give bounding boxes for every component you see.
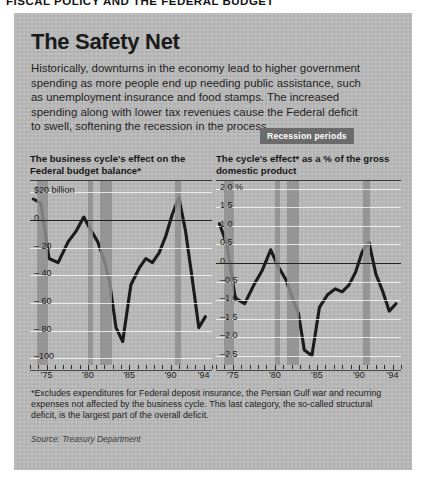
- recession-band: [37, 181, 48, 365]
- gridline: [216, 282, 401, 283]
- x-axis-tick: [342, 365, 343, 369]
- x-axis-tick: [55, 365, 56, 369]
- x-axis-tick-label: '90: [353, 370, 365, 380]
- x-axis-tick-label: '80: [82, 370, 94, 380]
- x-axis-tick: [367, 365, 368, 369]
- x-axis-tick: [80, 365, 81, 369]
- x-axis-tick: [162, 365, 163, 369]
- x-axis-tick: [292, 365, 293, 369]
- x-axis-tick-label: '94: [198, 370, 210, 380]
- gridline: [30, 303, 212, 304]
- x-axis-rule-left: [30, 370, 212, 371]
- x-axis-tick: [283, 365, 284, 369]
- gridline: [30, 192, 212, 193]
- x-axis-tick: [121, 365, 122, 369]
- x-axis-tick: [195, 365, 196, 369]
- gridline: [30, 248, 212, 249]
- recession-band: [88, 181, 93, 365]
- x-axis-tick: [300, 365, 301, 369]
- x-axis-tick: [258, 365, 259, 369]
- x-axis-tick: [309, 365, 310, 369]
- zero-line: [216, 263, 401, 264]
- article-panel: The Safety Net Historically, downturns i…: [14, 13, 412, 470]
- x-axis-tick: [241, 365, 242, 369]
- footnote: *Excludes expenditures for Federal depos…: [31, 388, 391, 422]
- x-axis-tick: [325, 365, 326, 369]
- page-title: The Safety Net: [31, 29, 180, 55]
- x-axis-tick: [104, 365, 105, 369]
- page-kicker: FISCAL POLICY AND THE FEDERAL BUDGET: [6, 0, 274, 7]
- x-axis-tick: [71, 365, 72, 369]
- gridline: [216, 189, 401, 190]
- x-axis-tick: [138, 365, 139, 369]
- x-axis-tick-label: '75: [227, 370, 239, 380]
- x-axis-tick: [30, 365, 31, 369]
- x-axis-tick: [146, 365, 147, 369]
- chart-title-left: The business cycle's effect on the Feder…: [30, 153, 212, 176]
- gridline: [216, 337, 401, 338]
- x-axis-tick-label: '85: [311, 370, 323, 380]
- x-axis-tick-label: '94: [387, 370, 399, 380]
- recession-band: [100, 181, 112, 365]
- series-svg-left: [30, 181, 212, 365]
- gridline: [216, 300, 401, 301]
- x-axis-tick-label: '80: [269, 370, 281, 380]
- x-axis-tick: [179, 365, 180, 369]
- x-axis-tick: [250, 365, 251, 369]
- plot-area-right: [216, 180, 401, 365]
- x-axis-tick: [224, 365, 225, 369]
- gridline: [216, 244, 401, 245]
- x-axis-tick: [384, 365, 385, 369]
- gridline: [216, 207, 401, 208]
- x-axis-tick-label: '85: [123, 370, 135, 380]
- gridline: [30, 358, 212, 359]
- chart-federal-budget-balance: The business cycle's effect on the Feder…: [30, 153, 212, 381]
- x-axis-tick: [266, 365, 267, 369]
- plot-area-left: [30, 180, 212, 365]
- x-axis-tick: [113, 365, 114, 369]
- x-axis-tick-label: '90: [165, 370, 177, 380]
- x-axis-tick: [376, 365, 377, 369]
- source-credit: Source: Treasury Department: [31, 434, 141, 444]
- x-axis-tick: [212, 365, 213, 369]
- x-axis-tick: [154, 365, 155, 369]
- chart-cycle-effect-pct-gdp: The cycle's effect* as a % of the gross …: [216, 153, 401, 381]
- x-axis-tick: [334, 365, 335, 369]
- x-axis-tick: [351, 365, 352, 369]
- zero-line: [30, 220, 212, 221]
- gridline: [216, 226, 401, 227]
- gridline: [30, 275, 212, 276]
- x-axis-tick: [63, 365, 64, 369]
- x-axis-rule-right: [216, 370, 401, 371]
- x-axis-tick: [216, 365, 217, 369]
- gridline: [30, 331, 212, 332]
- lede-paragraph: Historically, downturns in the economy l…: [31, 61, 361, 134]
- x-axis-tick: [187, 365, 188, 369]
- x-axis-tick: [96, 365, 97, 369]
- x-axis-tick: [38, 365, 39, 369]
- recession-band: [175, 181, 182, 365]
- recession-legend-badge: Recession periods: [260, 128, 354, 144]
- chart-title-right: The cycle's effect* as a % of the gross …: [216, 153, 401, 176]
- x-axis-tick-label: '75: [41, 370, 53, 380]
- gridline: [216, 356, 401, 357]
- gridline: [216, 319, 401, 320]
- x-axis-tick: [401, 365, 402, 369]
